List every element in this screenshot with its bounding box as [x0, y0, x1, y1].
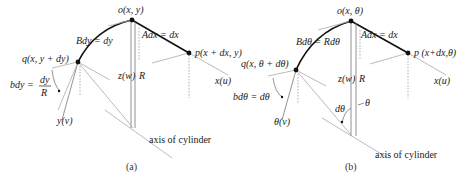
angle-arrow-a	[58, 90, 60, 92]
label-arc: Bdy = dy	[76, 35, 113, 46]
caption-b: (b)	[345, 161, 357, 173]
angle-arc-a	[52, 70, 60, 91]
label-angle-b: bdθ = dθ	[233, 91, 270, 102]
label-point-o-b: o(x, θ)	[337, 5, 364, 17]
label-point-o: o(x, y)	[118, 4, 144, 16]
q-line-3-b	[296, 70, 326, 86]
label-dtheta: dθ	[335, 103, 345, 114]
y-axis-line	[62, 62, 78, 120]
label-cylinder-axis-b: axis of cylinder	[375, 149, 438, 160]
label-x-axis: x(u)	[214, 75, 232, 87]
label-angle-den: R	[40, 87, 47, 98]
tangent-o	[108, 20, 132, 26]
point-q-b	[294, 68, 299, 73]
label-radius: R	[138, 70, 145, 81]
label-x-axis-b: x(u)	[433, 75, 451, 87]
caption-a: (a)	[126, 161, 137, 173]
theta-pointer	[358, 103, 364, 105]
q-line-2	[58, 62, 78, 110]
cylinder-coordinates-diagram: o(x, y) p(x + dx, y) q(x, y + dy) Bdy = …	[0, 0, 466, 182]
label-arc-b: Bdθ = Rdθ	[296, 36, 340, 47]
x-axis-back-b	[370, 53, 408, 64]
label-point-p: p(x + dx, y)	[194, 47, 242, 59]
label-line-b: Adx = dx	[360, 29, 398, 40]
label-line: Adx = dx	[141, 29, 179, 40]
label-angle-left: bdy =	[10, 79, 34, 90]
angle-arrow-b	[281, 96, 283, 98]
q-line-3	[78, 62, 110, 80]
label-theta: θ	[365, 97, 370, 108]
panel-a: o(x, y) p(x + dx, y) q(x, y + dy) Bdy = …	[10, 4, 242, 173]
point-p-b	[406, 51, 411, 56]
point-o-a	[130, 18, 135, 23]
q-tangent-b	[268, 70, 296, 76]
tangent-o-b	[318, 21, 351, 30]
point-q-a	[76, 60, 81, 65]
label-point-q: q(x, y + dy)	[22, 53, 69, 65]
point-o-b	[349, 19, 354, 24]
label-point-q-b: q(x, θ + dθ)	[241, 58, 289, 70]
angle-arc-b	[273, 78, 282, 97]
point-p-a	[187, 51, 192, 56]
theta-axis-line	[282, 70, 296, 120]
label-cylinder-axis-a: axis of cylinder	[149, 134, 212, 145]
label-point-p-b: p (x+dx,θ)	[413, 47, 457, 59]
panel-b: o(x, θ) p (x+dx,θ) q(x, θ + dθ) Bdθ = Rd…	[233, 5, 457, 173]
label-z-axis: z(w)	[117, 70, 136, 82]
label-theta-axis: θ(v)	[274, 116, 291, 128]
label-z-axis-b: z(w)	[337, 73, 356, 85]
x-axis-back	[152, 53, 189, 63]
label-y-axis: y(v)	[56, 115, 73, 127]
dtheta-arrow	[341, 121, 343, 123]
label-radius-b: R	[358, 73, 365, 84]
label-angle-num: dy	[40, 74, 50, 85]
